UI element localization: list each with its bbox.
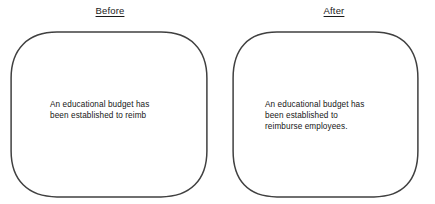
panel-body-text-before: An educational budget has been establish… [50,99,190,121]
heading-after: After [284,5,384,17]
panel-before[interactable]: An educational budget has been establish… [10,31,208,198]
heading-before: Before [60,5,160,17]
panel-body-text-after: An educational budget has been establish… [265,99,405,133]
slide-canvas: Before After An educational budget has b… [0,0,435,204]
panel-after[interactable]: An educational budget has been establish… [232,31,419,198]
